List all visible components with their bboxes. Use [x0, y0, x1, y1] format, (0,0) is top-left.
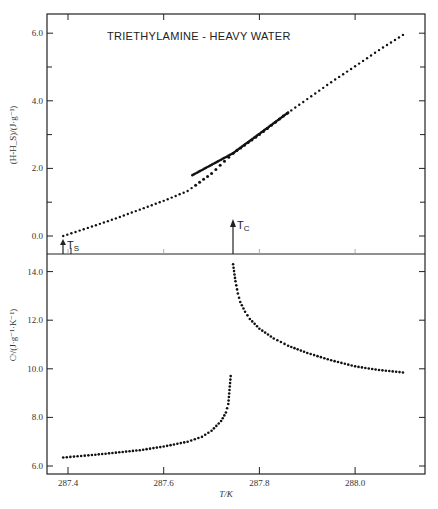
chart: TRIETHYLAMINE - HEAVY WATER 0.02.04.06.0…	[0, 0, 438, 509]
y-tick-label: 12.0	[27, 315, 43, 325]
ts-label: TS	[67, 239, 79, 253]
x-tick-label: 287.6	[154, 478, 175, 488]
tc-marker: TC	[230, 219, 250, 254]
enthalpy-series	[62, 34, 404, 238]
y-tick-label: 14.0	[27, 267, 43, 277]
y-tick-label: 2.0	[32, 163, 44, 173]
arrow-up-icon	[230, 219, 236, 227]
x-axis-title: T/K	[219, 489, 234, 499]
x-tick-label: 287.8	[249, 478, 270, 488]
arrow-up-icon	[60, 239, 66, 245]
y-tick-label: 6.0	[32, 461, 44, 471]
upper-y-axis-title: (H-H_S)/(J·g⁻¹)	[8, 106, 18, 165]
chart-title: TRIETHYLAMINE - HEAVY WATER	[107, 30, 291, 42]
x-tick-label: 288.0	[345, 478, 366, 488]
y-tick-label: 8.0	[32, 412, 44, 422]
upper-y-axis: 0.02.04.06.0	[32, 28, 425, 241]
x-tick-label: 287.4	[58, 478, 79, 488]
ts-marker: TS	[60, 239, 79, 254]
lower-y-axis-title: Cˢ/(J·g⁻¹·K⁻¹)	[8, 309, 18, 361]
y-tick-label: 4.0	[32, 96, 44, 106]
plot-frame	[47, 14, 425, 474]
heat-capacity-series	[62, 263, 404, 459]
y-tick-label: 6.0	[32, 28, 44, 38]
x-axis: 287.4287.6287.8288.0	[58, 14, 366, 488]
y-tick-label: 0.0	[32, 231, 44, 241]
y-tick-label: 10.0	[27, 364, 43, 374]
tc-label: TC	[237, 219, 250, 233]
